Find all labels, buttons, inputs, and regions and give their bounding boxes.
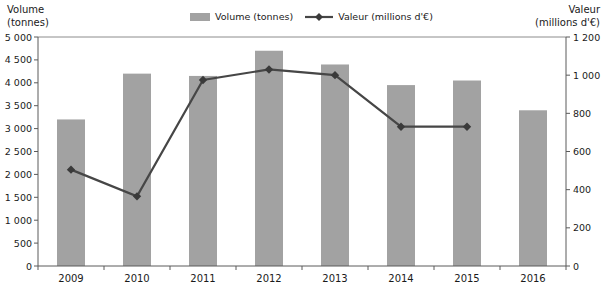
right-tick-label: 1 000: [573, 70, 600, 81]
x-label-2015: 2015: [454, 273, 479, 284]
bar-2010: [123, 74, 151, 266]
bar-2009: [57, 119, 85, 266]
left-tick-label: 2 000: [5, 169, 32, 180]
bar-2014: [387, 85, 415, 266]
x-label-2010: 2010: [124, 273, 149, 284]
left-tick-label: 500: [14, 238, 32, 249]
left-tick-label: 4 500: [5, 54, 32, 65]
left-tick-label: 3 500: [5, 100, 32, 111]
left-tick-label: 0: [26, 261, 32, 272]
x-label-2012: 2012: [256, 273, 281, 284]
bar-2012: [255, 51, 283, 266]
x-label-2016: 2016: [520, 273, 545, 284]
left-tick-label: 2 500: [5, 146, 32, 157]
bar-2016: [519, 110, 547, 266]
x-label-2011: 2011: [190, 273, 215, 284]
right-tick-label: 600: [573, 146, 591, 157]
left-tick-label: 5 000: [5, 32, 32, 43]
bar-2015: [453, 81, 481, 266]
left-tick-label: 4 000: [5, 77, 32, 88]
left-tick-label: 3 000: [5, 123, 32, 134]
chart: Volume (tonnes) Valeur (millions d'€) Vo…: [0, 0, 604, 293]
bar-2013: [321, 64, 349, 266]
x-label-2014: 2014: [388, 273, 413, 284]
bar-2011: [189, 76, 217, 266]
x-label-2009: 2009: [58, 273, 83, 284]
right-tick-label: 0: [573, 261, 579, 272]
right-tick-label: 800: [573, 108, 591, 119]
left-tick-label: 1 000: [5, 215, 32, 226]
left-tick-label: 1 500: [5, 192, 32, 203]
x-label-2013: 2013: [322, 273, 347, 284]
right-tick-label: 200: [573, 222, 591, 233]
right-tick-label: 1 200: [573, 32, 600, 43]
right-tick-label: 400: [573, 184, 591, 195]
plot-area: 05001 0001 5002 0002 5003 0003 5004 0004…: [0, 0, 604, 293]
